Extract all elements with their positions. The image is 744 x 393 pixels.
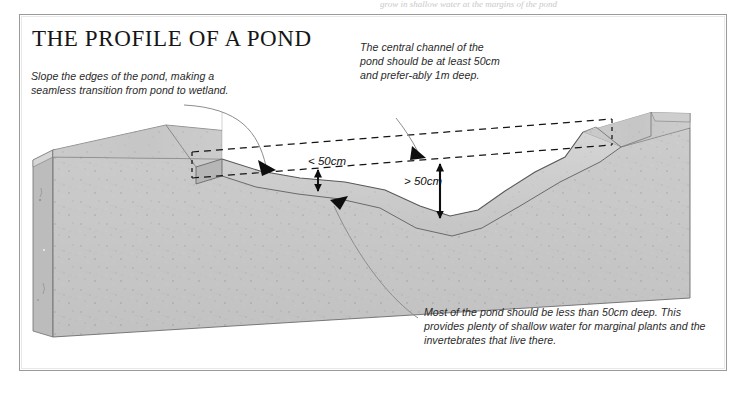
depth-label-shallow: < 50cm (308, 155, 346, 167)
depth-label-channel: > 50cm (404, 175, 442, 187)
callout-shallow-water: Most of the pond should be less than 50c… (424, 305, 716, 348)
callout-slope-edges: Slope the edges of the pond, making a se… (31, 69, 246, 97)
callout-central-channel: The central channel of the pond should b… (360, 40, 510, 83)
soil-block-left-end (33, 150, 53, 337)
pond-profile-figure: grow in shallow water at the margins of … (0, 0, 744, 393)
